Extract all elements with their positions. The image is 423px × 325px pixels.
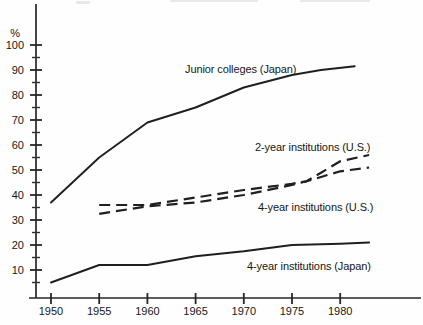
series-label: 2-year institutions (U.S.)	[255, 141, 370, 153]
y-tick-label: 80	[12, 89, 24, 101]
y-tick-label: 60	[12, 139, 24, 151]
series-line	[99, 155, 369, 205]
x-tick-label: 1965	[183, 305, 207, 317]
series-label: Junior colleges (Japan)	[185, 63, 296, 75]
x-tick-label: 1960	[135, 305, 159, 317]
scan-artifact	[170, 0, 258, 2]
y-tick-label: 50	[12, 164, 24, 176]
series-label: 4-year institutions (Japan)	[247, 260, 371, 272]
y-tick-label: 20	[12, 239, 24, 251]
x-tick-label: 1975	[280, 305, 304, 317]
x-tick-label: 1955	[87, 305, 111, 317]
y-axis-unit-label: %	[10, 27, 20, 39]
series-label: 4-year institutions (U.S.)	[258, 201, 373, 213]
x-tick-label: 1950	[39, 305, 63, 317]
line-chart: 100908070605040302010%195019551960196519…	[0, 0, 423, 325]
y-tick-label: 90	[12, 64, 24, 76]
scan-artifact	[76, 1, 90, 4]
y-tick-label: 100	[6, 39, 24, 51]
line-chart-svg: 100908070605040302010%195019551960196519…	[0, 0, 423, 325]
x-tick-label: 1980	[328, 305, 352, 317]
y-tick-label: 70	[12, 114, 24, 126]
y-tick-label: 40	[12, 189, 24, 201]
x-tick-label: 1970	[232, 305, 256, 317]
series-line	[51, 66, 355, 202]
y-tick-label: 30	[12, 214, 24, 226]
scan-artifact	[300, 0, 370, 2]
y-tick-label: 10	[12, 264, 24, 276]
